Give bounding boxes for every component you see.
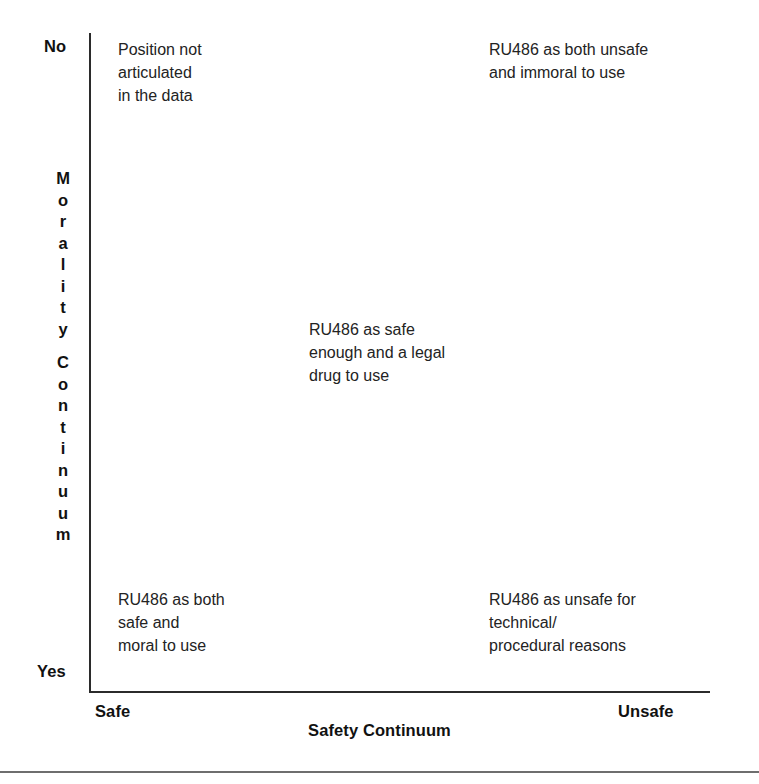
y-axis-line — [89, 33, 91, 693]
quadrant-matrix-figure: No Yes Safe Unsafe MoralityContinuum Saf… — [0, 0, 759, 784]
x-axis-right-tick-label: Unsafe — [618, 702, 674, 721]
y-axis-title: MoralityContinuum — [46, 168, 80, 546]
x-axis-left-tick-label: Safe — [95, 702, 130, 721]
quadrant-label-top-left: Position not articulated in the data — [118, 38, 348, 107]
y-axis-title-glyph: C — [46, 352, 80, 374]
y-axis-title-glyph: i — [46, 438, 80, 460]
y-axis-title-glyph: a — [46, 233, 80, 255]
x-axis-line — [89, 691, 710, 693]
y-axis-title-glyph: M — [46, 168, 80, 190]
y-axis-title-glyph: r — [46, 211, 80, 233]
y-axis-title-glyph: i — [46, 276, 80, 298]
quadrant-label-center: RU486 as safe enough and a legal drug to… — [309, 318, 539, 387]
y-axis-title-glyph: o — [46, 374, 80, 396]
y-axis-bottom-tick-label: Yes — [37, 662, 66, 681]
bottom-separator-rule — [0, 771, 759, 773]
quadrant-label-bottom-right: RU486 as unsafe for technical/ procedura… — [489, 588, 739, 657]
y-axis-title-glyph: n — [46, 395, 80, 417]
y-axis-title-word-gap — [46, 340, 80, 352]
quadrant-label-bottom-left: RU486 as both safe and moral to use — [118, 588, 348, 657]
y-axis-title-glyph: t — [46, 297, 80, 319]
x-axis-title: Safety Continuum — [0, 721, 759, 740]
y-axis-title-glyph: y — [46, 319, 80, 341]
y-axis-title-glyph: t — [46, 417, 80, 439]
quadrant-label-top-right: RU486 as both unsafe and immoral to use — [489, 38, 739, 84]
y-axis-title-glyph: l — [46, 254, 80, 276]
y-axis-title-glyph: o — [46, 190, 80, 212]
y-axis-title-glyph: n — [46, 460, 80, 482]
y-axis-title-glyph: u — [46, 503, 80, 525]
y-axis-top-tick-label: No — [44, 37, 66, 56]
y-axis-title-glyph: u — [46, 481, 80, 503]
y-axis-title-glyph: m — [46, 524, 80, 546]
